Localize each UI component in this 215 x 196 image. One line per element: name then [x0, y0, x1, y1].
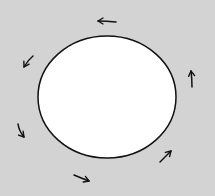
rotation-diagram	[0, 0, 215, 196]
diagram-canvas	[0, 0, 215, 196]
arrow-lower-left-down-icon	[18, 124, 24, 137]
arrow-bottom-right-icon	[74, 175, 89, 181]
arrow-lower-right-up-right-icon	[160, 151, 171, 162]
arrow-right-up-icon	[191, 71, 192, 87]
arrow-upper-left-down-left-icon	[24, 56, 33, 67]
circle-shape	[38, 36, 176, 158]
arrow-top-left-icon	[98, 21, 116, 22]
